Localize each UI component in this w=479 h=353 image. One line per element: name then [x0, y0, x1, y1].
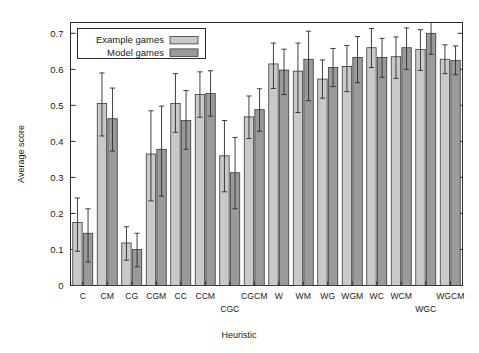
bar-model-games [328, 68, 337, 286]
x-category-label: WCM [391, 291, 412, 301]
bar-model-games [426, 33, 435, 285]
y-tick-label: 0.6 [50, 64, 63, 75]
bar-example-games [391, 57, 400, 286]
x-category-label: CCM [195, 291, 215, 301]
chart-figure: 00.10.20.30.40.50.60.7 CCMCGCGMCCCCMCGCC… [0, 0, 479, 353]
y-tick-label: 0.5 [50, 100, 63, 111]
bar-model-games [451, 60, 460, 285]
x-category-label: WC [370, 291, 384, 301]
legend-label: Model games [107, 47, 164, 58]
bar-example-games [195, 95, 204, 286]
bar-model-games [377, 57, 386, 285]
bar-chart-svg: 00.10.20.30.40.50.60.7 CCMCGCGMCCCCMCGCC… [0, 0, 479, 353]
bar-example-games [440, 59, 449, 285]
bar-model-games [279, 70, 288, 285]
x-category-label: W [275, 291, 284, 301]
bar-example-games [269, 64, 278, 286]
x-category-label: CGM [146, 291, 166, 301]
y-axis-label: Average score [16, 125, 26, 183]
chart-legend: Example gamesModel games [78, 29, 206, 59]
x-category-label: WGM [341, 291, 363, 301]
y-tick-label: 0.1 [50, 244, 63, 255]
y-tick-label: 0.2 [50, 208, 63, 219]
bar-model-games [255, 110, 264, 286]
bar-model-games [402, 48, 411, 286]
x-category-label: WGCM [436, 291, 464, 301]
x-category-label: WM [296, 291, 311, 301]
x-category-label: CGCM [241, 291, 267, 301]
false [170, 49, 198, 57]
bar-example-games [367, 48, 376, 286]
bar-model-games [353, 57, 362, 285]
bar-example-games [318, 79, 327, 285]
x-axis-label: Heuristic [221, 330, 257, 340]
bar-example-games [244, 117, 253, 286]
bar-example-games [416, 50, 425, 286]
y-tick-label: 0.4 [50, 136, 63, 147]
y-tick-label: 0 [58, 280, 63, 291]
y-tick-label: 0.7 [50, 28, 63, 39]
x-category-label: CM [101, 291, 114, 301]
bar-example-games [342, 66, 351, 285]
false [170, 36, 198, 44]
x-category-label: CGC [220, 304, 239, 314]
x-category-label: WG [320, 291, 335, 301]
legend-label: Example games [96, 34, 164, 45]
bar-model-games [206, 93, 215, 285]
x-category-label: WGC [415, 304, 436, 314]
x-category-label: CG [125, 291, 138, 301]
x-category-label: C [80, 291, 86, 301]
x-category-label: CC [175, 291, 187, 301]
y-tick-label: 0.3 [50, 172, 63, 183]
